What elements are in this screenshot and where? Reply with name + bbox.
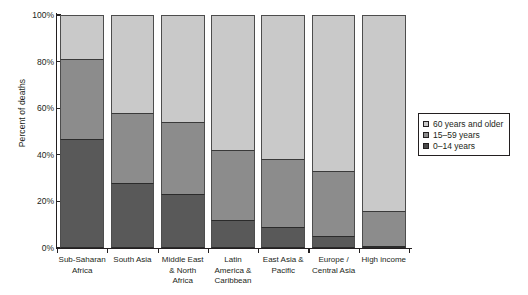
bar-column[interactable] [60, 15, 104, 248]
bar-segment-60-plus[interactable] [161, 15, 205, 122]
x-axis-tick-mark [359, 248, 360, 253]
chart-legend: 60 years and older 15–59 years 0–14 year… [418, 113, 510, 156]
x-axis-label-line: Pacific [259, 266, 307, 277]
y-axis-tick-label: 40% [37, 150, 57, 160]
y-axis-tick: 60% [37, 103, 57, 113]
bar-segment-60-plus[interactable] [211, 15, 255, 150]
bar-segment-15-59[interactable] [161, 122, 205, 194]
bar-segment-15-59[interactable] [261, 159, 305, 227]
bar-segment-60-plus[interactable] [111, 15, 155, 113]
bar-segment-15-59[interactable] [312, 171, 356, 236]
legend-item[interactable]: 15–59 years [423, 129, 503, 140]
y-axis-tick: 40% [37, 150, 57, 160]
legend-label: 0–14 years [433, 141, 475, 151]
x-axis-label-line: Africa [159, 276, 207, 287]
y-axis-tick-label: 60% [37, 103, 57, 113]
x-axis-tick-mark [308, 248, 309, 253]
bar-segment-60-plus[interactable] [60, 15, 104, 59]
y-axis-tick-label: 80% [37, 57, 57, 67]
x-axis-tick-mark [208, 248, 209, 253]
legend-item[interactable]: 0–14 years [423, 140, 503, 151]
x-axis-label: East Asia &Pacific [259, 255, 307, 287]
x-axis-labels: Sub-SaharanAfricaSouth AsiaMiddle East& … [57, 255, 409, 287]
y-axis-tick: 80% [37, 57, 57, 67]
bar-segment-15-59[interactable] [111, 113, 155, 183]
bar-column[interactable] [362, 15, 406, 248]
legend-item[interactable]: 60 years and older [423, 118, 503, 129]
bar-segment-60-plus[interactable] [362, 15, 406, 211]
x-axis-label-line: Africa [58, 266, 106, 277]
legend-label: 15–59 years [433, 130, 480, 140]
x-axis-tick-mark [409, 248, 410, 253]
bar-segment-0-14[interactable] [312, 236, 356, 248]
x-axis-tick-mark [57, 248, 58, 253]
legend-swatch-60-plus-icon [423, 121, 429, 127]
x-axis-label-line: South Asia [108, 255, 156, 266]
bar-column[interactable] [161, 15, 205, 248]
bar-column[interactable] [211, 15, 255, 248]
x-axis-label-line: Central Asia [309, 266, 357, 277]
plot-area: 0%20%40%60%80%100% [57, 15, 409, 248]
x-axis-label-line: Latin [209, 255, 257, 266]
y-axis-tick-label: 0% [42, 243, 57, 253]
bar-segment-0-14[interactable] [161, 194, 205, 248]
bar-segment-0-14[interactable] [60, 139, 104, 249]
bar-segment-60-plus[interactable] [261, 15, 305, 159]
y-axis-tick-label: 100% [32, 10, 57, 20]
x-axis-tick-mark [158, 248, 159, 253]
bar-column[interactable] [111, 15, 155, 248]
y-axis-tick-label: 20% [37, 196, 57, 206]
x-axis-label: Europe /Central Asia [309, 255, 357, 287]
x-axis-label-line: High income [360, 255, 408, 266]
bar-segment-15-59[interactable] [362, 211, 406, 246]
legend-label: 60 years and older [433, 119, 503, 129]
bar-segment-0-14[interactable] [111, 183, 155, 248]
bar-column[interactable] [312, 15, 356, 248]
x-axis-label-line: Sub-Saharan [58, 255, 106, 266]
x-axis-label-line: Caribbean [209, 276, 257, 287]
y-axis-tick: 20% [37, 196, 57, 206]
legend-swatch-15-59-icon [423, 132, 429, 138]
legend-swatch-0-14-icon [423, 143, 429, 149]
x-axis-label-line: & North [159, 266, 207, 277]
stacked-bar-chart: Percent of deaths 0%20%40%60%80%100% Sub… [0, 0, 528, 295]
y-axis-title: Percent of deaths [17, 53, 27, 173]
x-axis-label-line: America & [209, 266, 257, 277]
bar-segment-0-14[interactable] [261, 227, 305, 248]
x-axis-label-line: East Asia & [259, 255, 307, 266]
bar-column[interactable] [261, 15, 305, 248]
x-axis-label-line: Europe / [309, 255, 357, 266]
bar-segment-15-59[interactable] [211, 150, 255, 220]
x-axis-label: Sub-SaharanAfrica [58, 255, 106, 287]
x-axis-ticks [57, 248, 409, 253]
x-axis-tick-mark [258, 248, 259, 253]
x-axis-label: High income [360, 255, 408, 287]
y-axis-tick: 100% [32, 10, 57, 20]
x-axis-tick-mark [107, 248, 108, 253]
bar-segment-0-14[interactable] [211, 220, 255, 248]
bar-segment-15-59[interactable] [60, 59, 104, 138]
x-axis-label: Middle East& NorthAfrica [159, 255, 207, 287]
x-axis-label: LatinAmerica &Caribbean [209, 255, 257, 287]
bar-segment-60-plus[interactable] [312, 15, 356, 171]
x-axis-label: South Asia [108, 255, 156, 287]
y-axis-tick: 0% [42, 243, 57, 253]
x-axis-label-line: Middle East [159, 255, 207, 266]
bar-group [57, 15, 409, 248]
